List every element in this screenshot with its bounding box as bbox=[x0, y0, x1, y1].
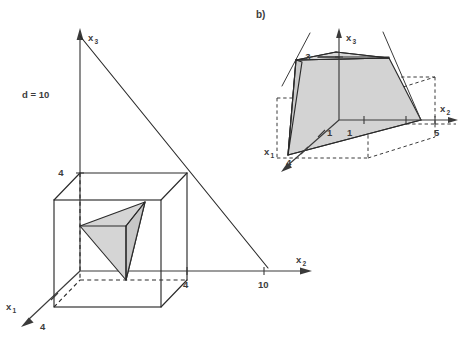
panel-a-tick-label-x2-axis: 10 bbox=[258, 279, 269, 290]
panel-b-tick-label-x2: 5 bbox=[434, 127, 440, 138]
panel-a-cube-depth-edge-topright bbox=[161, 173, 187, 200]
panel-b-axis-x3-sub: 3 bbox=[353, 38, 357, 45]
panel-a-tick-label-x2-cube: 4 bbox=[183, 279, 189, 290]
panel-a-axis-x3-sub: 3 bbox=[95, 38, 99, 45]
panel-a-axis-x2-label: x bbox=[296, 254, 302, 265]
panel-a-axis-x2-sub: 2 bbox=[303, 260, 307, 267]
figure-canvas: d = 10 x 3 x 2 x 1 4 4 10 4 bbox=[0, 0, 468, 339]
panel-b-label: b) bbox=[256, 9, 265, 20]
panel-a-axis-x1-arrowhead bbox=[21, 318, 34, 327]
panel-b-tick-label-x3: 3 bbox=[305, 51, 310, 62]
panel-b-tick-label-x1: 4 bbox=[286, 157, 292, 168]
panel-b-axis-x2-label: x bbox=[440, 103, 446, 114]
panel-a-constraint-label: d = 10 bbox=[22, 89, 49, 100]
panel-a-tick-label-x3: 4 bbox=[58, 167, 64, 178]
panel-b-axis-x2-arrowhead bbox=[448, 117, 458, 123]
panel-b: b) x 3 x 2 x 1 3 5 4 1 1 bbox=[256, 9, 458, 172]
panel-a-axis-x1-label: x bbox=[6, 301, 12, 312]
diagram-svg: d = 10 x 3 x 2 x 1 4 4 10 4 bbox=[0, 0, 468, 339]
panel-a: d = 10 x 3 x 2 x 1 4 4 10 4 bbox=[6, 28, 312, 332]
panel-a-tick-label-x1: 4 bbox=[40, 321, 46, 332]
panel-a-axis-x3-label: x bbox=[88, 32, 94, 43]
panel-a-axis-x1-sub: 1 bbox=[13, 307, 17, 314]
panel-a-axis-x2-arrowhead bbox=[300, 268, 312, 275]
panel-b-axis-x3-arrowhead bbox=[336, 28, 342, 38]
panel-b-axis-x2-sub: 2 bbox=[447, 109, 451, 116]
panel-b-tick-label-inner-left: 1 bbox=[327, 127, 333, 138]
panel-b-box-depth-bottom bbox=[368, 137, 435, 158]
panel-b-axis-x1-sub: 1 bbox=[271, 152, 275, 159]
panel-b-axis-x3-label: x bbox=[346, 32, 352, 43]
panel-b-axis-x1-label: x bbox=[264, 146, 270, 157]
panel-b-tick-label-inner-right: 1 bbox=[347, 127, 353, 138]
